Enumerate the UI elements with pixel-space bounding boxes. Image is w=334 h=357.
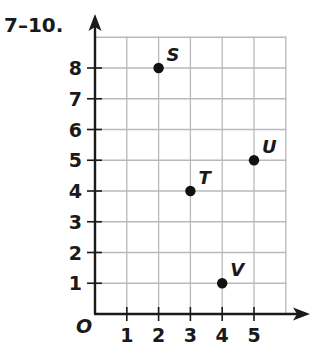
plotted-points: STUV — [153, 44, 277, 288]
point-s: S — [153, 44, 179, 73]
x-tick-label: 3 — [184, 324, 197, 346]
y-tick-label: 1 — [69, 272, 82, 294]
x-tick-label: 1 — [120, 324, 133, 346]
point-label: T — [198, 167, 212, 188]
point-label: U — [262, 136, 277, 157]
x-tick-label: 5 — [247, 324, 260, 346]
point-v: V — [217, 259, 246, 288]
y-tick-label: 8 — [69, 57, 82, 79]
y-tick-label: 6 — [69, 119, 82, 141]
y-tick-label: 4 — [69, 180, 82, 202]
point-u: U — [249, 136, 277, 165]
coordinate-plane: 1234512345678 O STUV — [0, 0, 334, 357]
point-dot-icon — [185, 186, 195, 196]
point-t: T — [185, 167, 212, 196]
y-tick-label: 5 — [69, 149, 82, 171]
point-label: V — [230, 259, 246, 280]
origin-label: O — [76, 315, 92, 337]
grid-lines — [95, 37, 286, 314]
point-label: S — [167, 44, 180, 65]
tick-labels: 1234512345678 — [69, 57, 261, 346]
point-dot-icon — [249, 155, 259, 165]
y-tick-label: 2 — [69, 242, 82, 264]
x-tick-label: 4 — [216, 324, 229, 346]
y-tick-label: 7 — [69, 88, 82, 110]
x-tick-label: 2 — [152, 324, 165, 346]
y-tick-label: 3 — [69, 211, 82, 233]
point-dot-icon — [217, 278, 227, 288]
point-dot-icon — [153, 63, 163, 73]
